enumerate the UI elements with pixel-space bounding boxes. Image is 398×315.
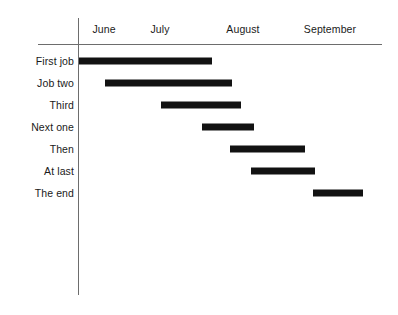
task-bar — [230, 146, 305, 153]
task-bar — [202, 124, 254, 131]
task-label: The end — [35, 187, 74, 199]
task-label: Third — [50, 99, 74, 111]
task-label: Next one — [31, 121, 74, 133]
task-label: At last — [44, 165, 74, 177]
month-label-june: June — [92, 23, 115, 35]
task-label: First job — [36, 55, 74, 67]
task-bar — [79, 58, 212, 65]
task-bar — [313, 190, 363, 197]
task-bar — [251, 168, 315, 175]
month-label-august: August — [226, 23, 259, 35]
task-label: Job two — [37, 77, 74, 89]
month-label-september: September — [304, 23, 356, 35]
task-label: Then — [50, 143, 74, 155]
task-bar — [105, 80, 232, 87]
task-bar — [161, 102, 241, 109]
month-label-july: July — [150, 23, 169, 35]
gantt-chart: JuneJulyAugustSeptember First jobJob two… — [0, 0, 398, 315]
horizontal-axis — [38, 44, 382, 45]
